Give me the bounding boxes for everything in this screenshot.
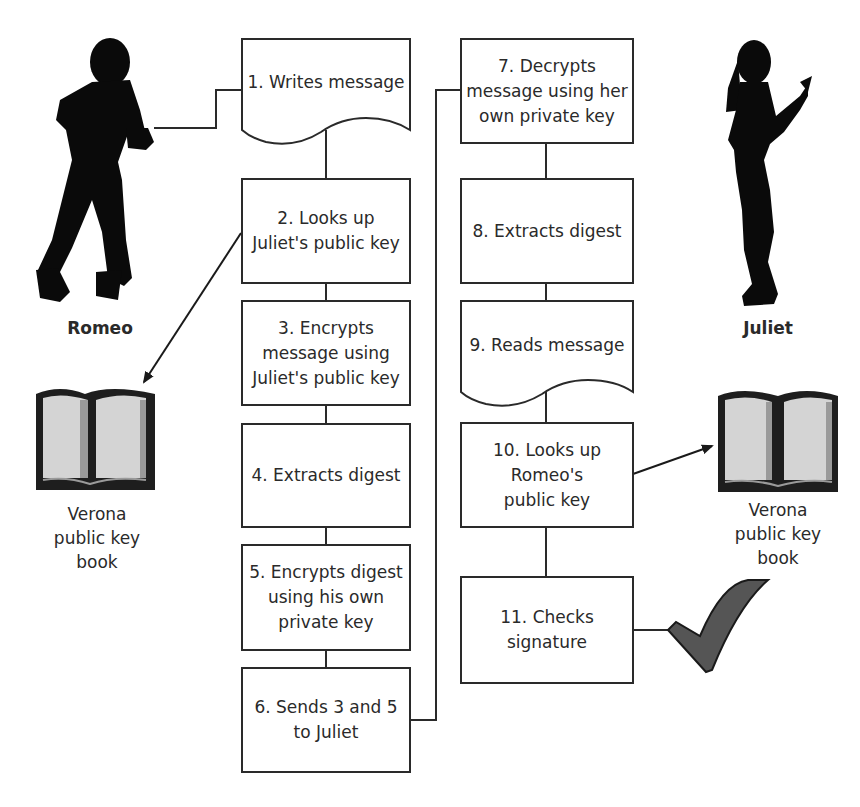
left-key-book-label: Verona public key book [36, 502, 158, 574]
left-public-key-book-icon [0, 0, 860, 807]
step-11-label: 11. Checks signature [500, 605, 594, 655]
step-6-sends-to-juliet: 6. Sends 3 and 5 to Juliet [241, 667, 411, 773]
step-5-encrypts-digest: 5. Encrypts digest using his own private… [241, 544, 411, 651]
step-9-label: 9. Reads message [469, 333, 624, 358]
step-8-label: 8. Extracts digest [472, 219, 621, 244]
step-3-label: 3. Encrypts message using Juliet's publi… [252, 316, 400, 391]
step-8-extracts-digest: 8. Extracts digest [460, 178, 634, 284]
step-2-looks-up-key: 2. Looks up Juliet's public key [241, 178, 411, 284]
step-5-label: 5. Encrypts digest using his own private… [249, 560, 403, 635]
right-public-key-book-icon [0, 0, 860, 807]
step-1-writes-message: 1. Writes message [241, 38, 411, 145]
step-9-reads-message: 9. Reads message [460, 300, 634, 408]
right-key-book-label: Verona public key book [717, 498, 839, 570]
step-7-decrypts-message: 7. Decrypts message using her own privat… [460, 38, 634, 144]
step-10-looks-up-key: 10. Looks up Romeo's public key [460, 422, 634, 528]
step-11-checks-signature: 11. Checks signature [460, 576, 634, 684]
step-10-label: 10. Looks up Romeo's public key [493, 438, 601, 513]
checkmark-icon [0, 0, 860, 807]
juliet-silhouette-icon [0, 0, 860, 807]
step-6-label: 6. Sends 3 and 5 to Juliet [254, 695, 397, 745]
connector-lines [0, 0, 860, 807]
step-4-extracts-digest: 4. Extracts digest [241, 423, 411, 528]
romeo-label: Romeo [60, 316, 140, 340]
step-1-label: 1. Writes message [247, 70, 404, 95]
step-4-label: 4. Extracts digest [251, 463, 400, 488]
romeo-silhouette-icon [0, 0, 860, 807]
signature-flowchart: Romeo Juliet Verona public key book [0, 0, 860, 807]
juliet-label: Juliet [728, 316, 808, 340]
step-3-encrypts-message: 3. Encrypts message using Juliet's publi… [241, 300, 411, 406]
step-7-label: 7. Decrypts message using her own privat… [466, 54, 627, 129]
step-2-label: 2. Looks up Juliet's public key [252, 206, 400, 256]
